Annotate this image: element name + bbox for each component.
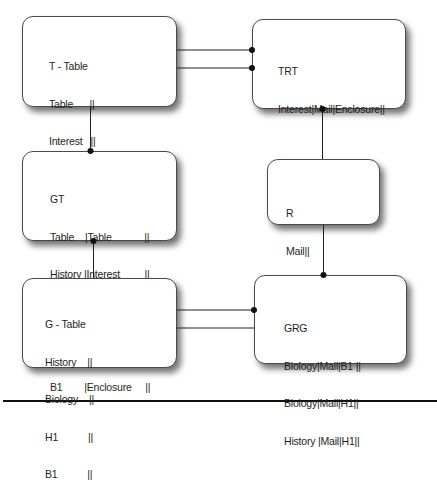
entity-row: Biology|Mail|H1|| xyxy=(284,397,361,410)
entity-row: Table || xyxy=(49,98,99,111)
entity-content: TRT Interest|Mail|Enclosure|| xyxy=(278,40,385,140)
entity-title: GRG xyxy=(284,322,361,335)
entity-box-gt[interactable]: GT Table |Table || History |Interest || … xyxy=(22,151,177,241)
entity-title: TRT xyxy=(278,65,385,78)
entity-box-grg[interactable]: GRG Biology|Mail|B1 || Biology|Mail|H1||… xyxy=(254,275,407,364)
entity-box-g-table[interactable]: G - Table History || Biology || H1 || B1… xyxy=(22,278,177,368)
entity-title: R xyxy=(286,207,310,220)
entity-content: R Mail|| xyxy=(286,182,310,282)
entity-box-trt[interactable]: TRT Interest|Mail|Enclosure|| xyxy=(252,19,406,109)
entity-row: Biology|Mail|B1 || xyxy=(284,360,361,373)
entity-title: T - Table xyxy=(49,60,99,73)
entity-content: GRG Biology|Mail|B1 || Biology|Mail|H1||… xyxy=(284,297,361,472)
entity-row: Biology || xyxy=(45,393,94,406)
entity-row: B1 || xyxy=(45,468,94,481)
entity-row: History || xyxy=(45,356,94,369)
entity-row: Interest|Mail|Enclosure|| xyxy=(278,103,385,116)
entity-row: Interest || xyxy=(49,135,99,148)
entity-box-r[interactable]: R Mail|| xyxy=(267,159,380,225)
entity-row: Mail|| xyxy=(286,245,310,258)
entity-row: Table |Table || xyxy=(50,231,151,244)
entity-content: G - Table History || Biology || H1 || B1… xyxy=(45,293,94,484)
entity-title: GT xyxy=(50,193,151,206)
entity-title: G - Table xyxy=(45,318,94,331)
entity-box-t-table[interactable]: T - Table Table || Interest || Enclosure… xyxy=(22,16,177,107)
entity-row: History |Mail|H1|| xyxy=(284,435,361,448)
entity-row: H1 || xyxy=(45,431,94,444)
